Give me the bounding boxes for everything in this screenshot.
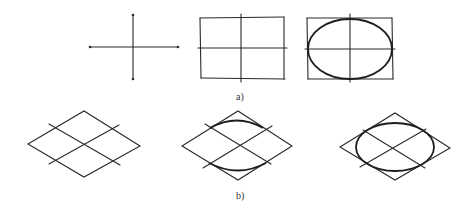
diagram-canvas [0,0,472,210]
ellipse-in-rhombus [340,113,450,180]
label-b: b) [236,191,244,201]
bounding-rectangle [198,14,287,82]
label-a: a) [236,92,244,102]
ellipse-in-rectangle [305,14,395,82]
isometric-rhombus [28,111,140,177]
rhombus-with-arcs [182,111,292,180]
axes-cross [89,14,180,81]
